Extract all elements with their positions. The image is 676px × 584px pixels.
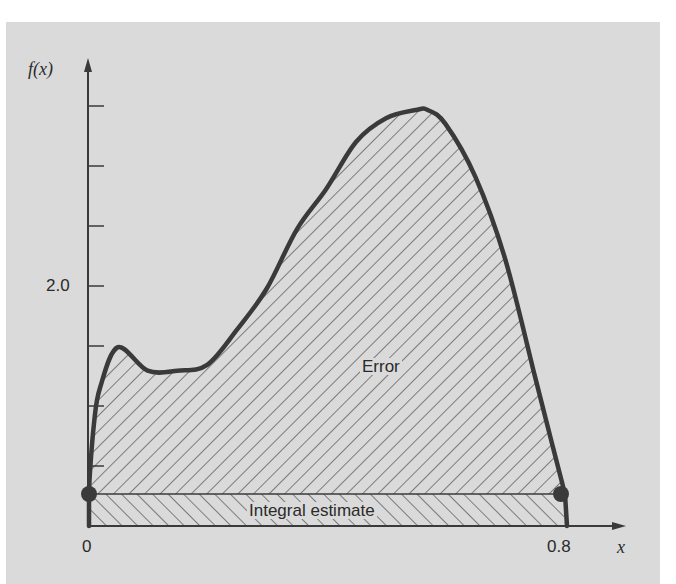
x-axis-label: x	[617, 538, 625, 556]
endpoint-right	[553, 486, 569, 502]
x-tick-label-0: 0	[82, 538, 91, 555]
endpoint-left	[81, 486, 97, 502]
x-tick-label-08: 0.8	[547, 538, 571, 555]
y-axis-label: f(x)	[28, 60, 53, 78]
y-tick-label-2: 2.0	[46, 277, 70, 294]
error-label: Error	[360, 358, 402, 375]
chart-figure	[0, 0, 676, 584]
error-region	[88, 109, 565, 494]
y-axis-arrow-icon	[84, 58, 92, 72]
integral-estimate-label: Integral estimate	[247, 502, 377, 519]
x-axis-arrow-icon	[612, 522, 626, 530]
